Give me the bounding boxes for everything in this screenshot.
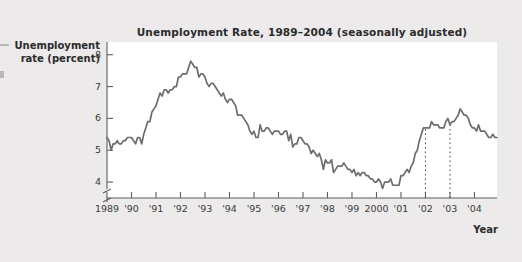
plot-svg (0, 0, 522, 262)
y-tick-label-7: 7 (79, 81, 101, 92)
y-tick-label-5: 5 (79, 144, 101, 155)
reference-lines (425, 125, 449, 198)
figure-container: Unemployment Rate, 1989–2004 (seasonally… (0, 0, 522, 262)
x-tick-marks (107, 192, 474, 198)
y-tick-label-8: 8 (79, 49, 101, 60)
y-tick-label-4: 4 (79, 176, 101, 187)
x-tick-label-'04: '04 (454, 203, 494, 214)
y-tick-marks (107, 55, 113, 182)
unemployment-rate-line (107, 61, 497, 188)
y-tick-label-6: 6 (79, 112, 101, 123)
